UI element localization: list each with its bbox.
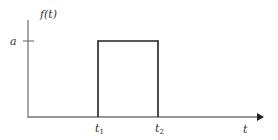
pulse-shape: [98, 41, 158, 117]
t1-label: t1: [95, 122, 104, 136]
pulse-diagram: f(t) a t t1 t2: [0, 0, 278, 140]
t2-label: t2: [155, 122, 164, 136]
amplitude-label: a: [10, 35, 17, 48]
x-axis-label: t: [243, 123, 248, 136]
x-axis-arrow-icon: [257, 113, 264, 121]
y-axis-label: f(t): [39, 8, 57, 21]
